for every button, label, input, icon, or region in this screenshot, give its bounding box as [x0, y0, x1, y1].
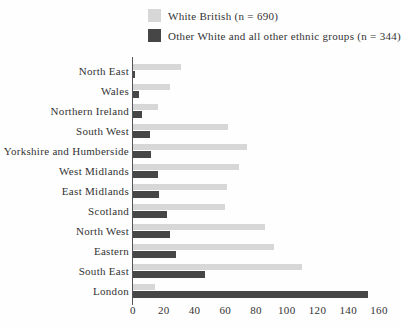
legend-swatch-dark-icon — [148, 29, 161, 42]
bar-white-british — [133, 284, 155, 290]
bar-white-british — [133, 184, 227, 190]
category-label: Eastern — [0, 244, 129, 258]
bar-other-groups — [133, 71, 135, 78]
bar-other-groups — [133, 131, 150, 138]
bar-white-british — [133, 124, 228, 130]
bar-other-groups — [133, 191, 159, 198]
bar-chart-figure: White British (n = 690) Other White and … — [0, 0, 401, 329]
x-axis-tick-label: 20 — [149, 304, 179, 316]
x-axis-tick-label: 60 — [210, 304, 240, 316]
legend-item-other-groups: Other White and all other ethnic groups … — [148, 29, 401, 42]
category-label: South West — [0, 124, 129, 138]
category-label: North West — [0, 224, 129, 238]
bar-white-british — [133, 244, 274, 250]
category-label: Wales — [0, 84, 129, 98]
x-axis-tick-label: 160 — [364, 304, 394, 316]
x-axis-tick-label: 120 — [303, 304, 333, 316]
bar-white-british — [133, 64, 181, 70]
legend-item-white-british: White British (n = 690) — [148, 9, 401, 22]
bar-white-british — [133, 164, 239, 170]
x-axis-tick-label: 80 — [241, 304, 271, 316]
bar-white-british — [133, 144, 247, 150]
legend-swatch-light-icon — [148, 9, 161, 22]
category-label: North East — [0, 64, 129, 78]
legend-label-white-british: White British (n = 690) — [168, 10, 278, 22]
chart-legend: White British (n = 690) Other White and … — [148, 9, 401, 49]
bar-other-groups — [133, 231, 170, 238]
category-label: Northern Ireland — [0, 104, 129, 118]
bar-other-groups — [133, 111, 142, 118]
bar-other-groups — [133, 151, 151, 158]
category-label: Scotland — [0, 204, 129, 218]
x-axis-tick-label: 0 — [118, 304, 148, 316]
category-label: South East — [0, 264, 129, 278]
bar-white-british — [133, 264, 302, 270]
bar-white-british — [133, 224, 265, 230]
bar-other-groups — [133, 251, 176, 258]
category-label: Yorkshire and Humberside — [0, 144, 129, 158]
bar-white-british — [133, 84, 170, 90]
category-label: London — [0, 284, 129, 298]
bar-other-groups — [133, 211, 167, 218]
bar-other-groups — [133, 91, 139, 98]
x-axis-tick-label: 140 — [333, 304, 363, 316]
category-label: East Midlands — [0, 184, 129, 198]
bar-other-groups — [133, 171, 158, 178]
bar-white-british — [133, 104, 158, 110]
x-axis-tick-label: 40 — [180, 304, 210, 316]
x-axis-tick-label: 100 — [272, 304, 302, 316]
bar-white-british — [133, 204, 225, 210]
bar-other-groups — [133, 271, 205, 278]
category-label: West Midlands — [0, 164, 129, 178]
legend-label-other-groups: Other White and all other ethnic groups … — [168, 30, 401, 42]
bar-other-groups — [133, 291, 368, 298]
